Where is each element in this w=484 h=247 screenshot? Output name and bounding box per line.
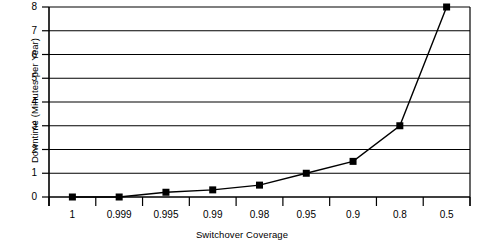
x-tick-label: 0.999 <box>94 210 144 220</box>
x-tick-label: 0.95 <box>281 210 331 220</box>
x-tick-label: 0.99 <box>188 210 238 220</box>
data-point-marker <box>256 182 263 189</box>
y-tick-label: 6 <box>17 50 37 60</box>
y-tick-label: 3 <box>17 121 37 131</box>
data-point-marker <box>162 189 169 196</box>
y-tick-label: 2 <box>17 145 37 155</box>
x-tick-label: 1 <box>47 210 97 220</box>
y-tick-label: 8 <box>17 2 37 12</box>
x-tick-group <box>49 197 470 206</box>
data-point-marker <box>116 194 123 201</box>
x-tick-label: 0.5 <box>422 210 472 220</box>
y-tick-label: 0 <box>17 192 37 202</box>
data-point-marker <box>350 158 357 165</box>
data-point-marker <box>69 194 76 201</box>
x-tick-label: 0.8 <box>375 210 425 220</box>
data-point-marker <box>303 170 310 177</box>
data-point-marker <box>209 186 216 193</box>
data-point-marker <box>396 122 403 129</box>
x-tick-label: 0.995 <box>141 210 191 220</box>
x-tick-label: 0.9 <box>328 210 378 220</box>
chart-container: Downtime (Minutes per Year) Switchover C… <box>0 0 484 247</box>
y-tick-label: 7 <box>17 26 37 36</box>
y-tick-label: 1 <box>17 168 37 178</box>
data-point-marker <box>443 4 450 11</box>
gridline-group <box>49 7 470 197</box>
y-tick-group <box>42 7 49 197</box>
x-tick-label: 0.98 <box>235 210 285 220</box>
y-tick-label: 4 <box>17 97 37 107</box>
y-tick-label: 5 <box>17 73 37 83</box>
